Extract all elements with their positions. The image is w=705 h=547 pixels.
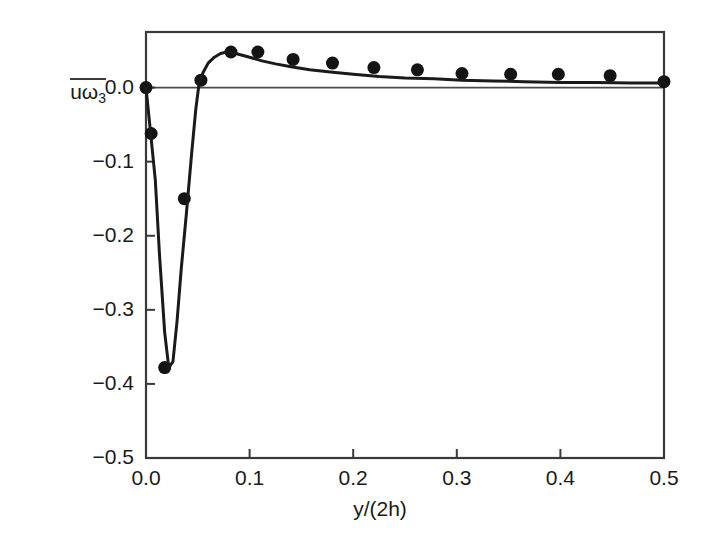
figure-chart: uω3 y/(2h) 0.00.10.20.30.40.50.0−0.1−0.2…: [0, 0, 705, 547]
y-tick-label: −0.1: [62, 149, 134, 173]
data-point: [604, 69, 617, 82]
y-tick-label: −0.5: [62, 445, 134, 469]
series-markers-0: [140, 46, 671, 375]
data-point: [326, 57, 339, 70]
x-tick-label: 0.3: [421, 466, 493, 490]
data-point: [455, 67, 468, 80]
x-tick-label: 0.2: [317, 466, 389, 490]
x-tick-label: 0.5: [628, 466, 700, 490]
data-point: [251, 46, 264, 59]
y-tick-label: 0.0: [62, 75, 134, 99]
plot-frame: [146, 32, 664, 458]
y-tick-label: −0.2: [62, 223, 134, 247]
data-point: [367, 61, 380, 74]
x-tick-label: 0.0: [110, 466, 182, 490]
data-point: [504, 68, 517, 81]
x-tick-label: 0.1: [214, 466, 286, 490]
data-point: [411, 63, 424, 76]
data-point: [552, 68, 565, 81]
y-tick-label: −0.3: [62, 297, 134, 321]
series-line-1: [146, 52, 664, 368]
y-tick-label: −0.4: [62, 371, 134, 395]
axis-ticks: [146, 88, 664, 458]
data-point: [287, 53, 300, 66]
x-tick-label: 0.4: [524, 466, 596, 490]
